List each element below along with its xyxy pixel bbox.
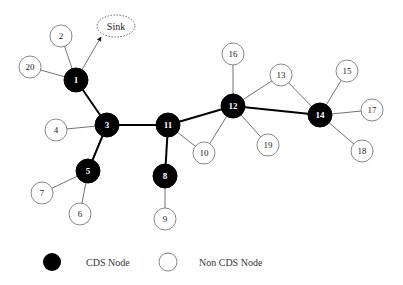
legend-non-cds-swatch [159, 253, 177, 271]
legend-cds-swatch [43, 253, 61, 271]
non-cds-node-17: 17 [361, 99, 383, 121]
cds-node-8: 8 [153, 164, 177, 188]
legend-cds-label: CDS Node [86, 257, 130, 268]
node-label: 2 [59, 31, 64, 41]
node-label: 20 [26, 62, 36, 72]
legend: CDS Node Non CDS Node [43, 253, 263, 271]
node-label: 8 [163, 171, 168, 181]
backbone-edge [233, 106, 320, 115]
non-cds-node-16: 16 [222, 43, 244, 65]
node-label: 1 [74, 75, 79, 85]
sink-label: Sink [107, 21, 125, 32]
nodes: 1234567891011121314151617181920 [19, 25, 383, 230]
node-label: 15 [343, 66, 353, 76]
node-label: 18 [358, 146, 368, 156]
non-cds-node-18: 18 [351, 140, 373, 162]
node-label: 10 [200, 148, 210, 158]
non-cds-node-20: 20 [19, 56, 41, 78]
node-label: 12 [229, 101, 239, 111]
legend-non-cds-label: Non CDS Node [199, 257, 263, 268]
node-label: 3 [105, 120, 110, 130]
node-label: 7 [40, 188, 45, 198]
node-label: 5 [86, 166, 91, 176]
non-cds-node-6: 6 [69, 203, 91, 225]
non-cds-node-9: 9 [154, 208, 176, 230]
node-label: 16 [229, 49, 239, 59]
node-label: 6 [78, 209, 83, 219]
node-label: 9 [163, 214, 168, 224]
cds-node-5: 5 [76, 159, 100, 183]
non-cds-node-2: 2 [50, 25, 72, 47]
cds-node-14: 14 [308, 103, 332, 127]
node-label: 4 [54, 125, 59, 135]
cds-node-11: 11 [156, 113, 180, 137]
non-cds-node-15: 15 [336, 60, 358, 82]
non-cds-node-19: 19 [257, 134, 279, 156]
sink-arrow [82, 37, 101, 70]
node-label: 19 [264, 140, 274, 150]
node-label: 13 [277, 70, 287, 80]
cds-node-12: 12 [221, 94, 245, 118]
edges [30, 36, 372, 219]
non-cds-node-13: 13 [270, 64, 292, 86]
network-diagram: Sink 1234567891011121314151617181920 CDS… [0, 0, 403, 285]
cds-node-1: 1 [64, 68, 88, 92]
node-label: 14 [316, 110, 326, 120]
non-cds-node-4: 4 [45, 119, 67, 141]
non-cds-node-7: 7 [31, 182, 53, 204]
node-label: 17 [368, 105, 378, 115]
sink: Sink [97, 15, 135, 37]
non-cds-node-10: 10 [193, 142, 215, 164]
cds-node-3: 3 [95, 113, 119, 137]
node-label: 11 [164, 120, 173, 130]
